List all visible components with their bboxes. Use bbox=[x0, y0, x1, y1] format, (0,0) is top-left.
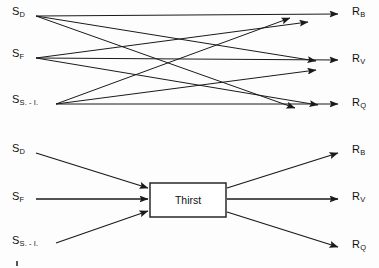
stray-ink-mark bbox=[16, 261, 18, 266]
top-response-label-rv: RV bbox=[352, 53, 365, 64]
edge-ssi-thirst bbox=[56, 211, 148, 243]
top-response-label-rq: RQ bbox=[352, 97, 366, 108]
edge-ssi-rv bbox=[56, 70, 316, 104]
bottom-stimulus-label-sf: SF bbox=[12, 191, 24, 202]
edge-sd-rb bbox=[36, 14, 338, 16]
top-response-label-rb: RB bbox=[352, 6, 365, 17]
bottom-response-label-rb: RB bbox=[352, 144, 365, 155]
bottom-stimulus-label-sd: SD bbox=[12, 143, 25, 154]
edge-sf-rb bbox=[36, 22, 308, 58]
bottom-stimulus-label-ssi: SS. - I. bbox=[12, 235, 38, 246]
top-diagram-canvas bbox=[0, 0, 379, 135]
top-stimulus-label-sf: SF bbox=[12, 48, 24, 59]
top-stimulus-label-ssi: SS. - I. bbox=[12, 94, 38, 105]
figure-container: SD SF SS. - I. RB RV RQ bbox=[0, 0, 379, 268]
full-interconnection-diagram: SD SF SS. - I. RB RV RQ bbox=[0, 0, 379, 135]
mediator-label: Thirst bbox=[150, 194, 226, 206]
edge-thirst-rb bbox=[227, 153, 338, 188]
mediating-construct-diagram: Thirst SD SF SS. - I. RB RV RQ bbox=[0, 135, 379, 268]
bottom-response-label-rq: RQ bbox=[352, 239, 366, 250]
edge-sd-thirst bbox=[36, 153, 148, 188]
edge-thirst-rq bbox=[227, 212, 338, 247]
edge-sf-rq bbox=[36, 58, 318, 105]
edge-sf-rv bbox=[36, 58, 338, 60]
edge-ssi-rb bbox=[56, 18, 290, 104]
top-edge-group bbox=[36, 14, 338, 108]
edge-sd-rv bbox=[36, 16, 316, 61]
top-stimulus-label-sd: SD bbox=[12, 6, 25, 17]
bottom-response-label-rv: RV bbox=[352, 191, 365, 202]
